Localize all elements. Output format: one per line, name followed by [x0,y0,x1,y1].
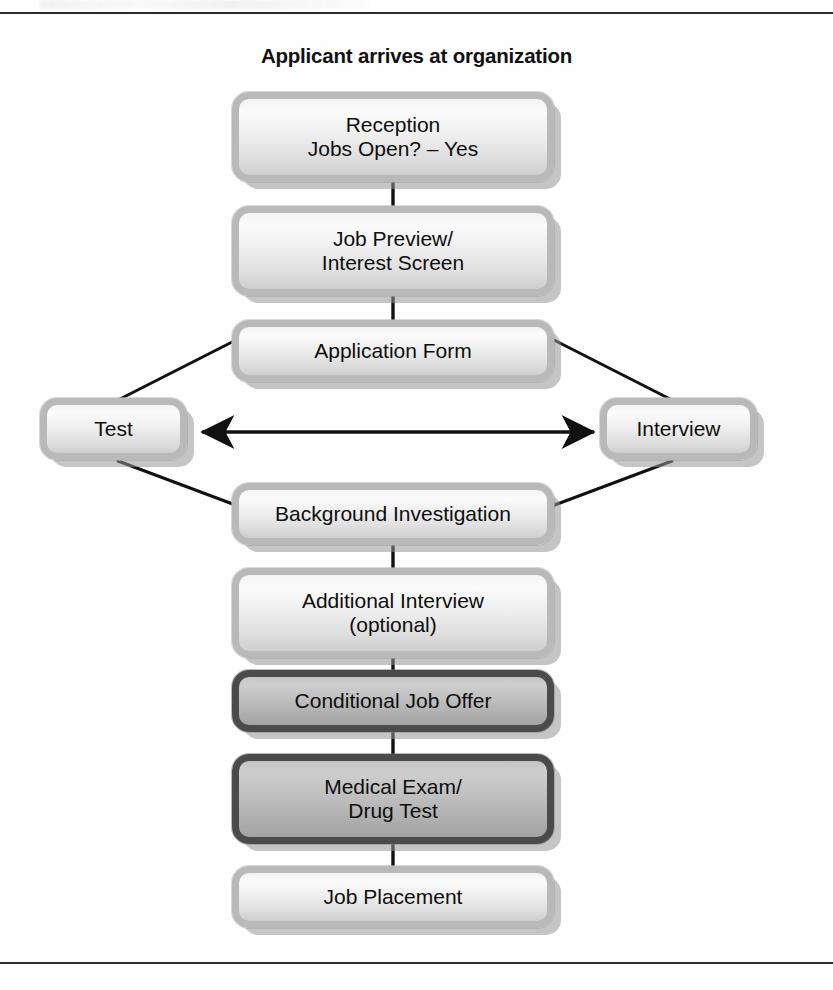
flow-node-application-form[interactable]: Application Form [232,320,554,382]
flow-node-conditional-job-offer[interactable]: Conditional Job Offer [232,670,554,732]
figure-bottom-rule [0,962,833,964]
flow-node-test[interactable]: Test [40,398,187,460]
flow-node-application-form-line-1: Application Form [314,339,472,363]
flow-node-background-investigation-line-1: Background Investigation [275,502,511,526]
flow-node-test-line-1: Test [94,417,133,441]
flow-node-medical-exam-label: Medical Exam/ Drug Test [316,775,470,824]
flow-node-job-preview-label: Job Preview/ Interest Screen [314,227,472,276]
figure-title: Applicant arrives at organization [0,44,833,68]
flow-node-reception[interactable]: Reception Jobs Open? – Yes [232,92,554,182]
flow-node-medical-exam[interactable]: Medical Exam/ Drug Test [232,754,554,844]
figure-top-rule [0,12,833,14]
flow-node-reception-line-1: Reception [308,113,478,137]
flow-node-additional-interview[interactable]: Additional Interview (optional) [232,568,554,658]
edge-application-interview [552,339,672,400]
edge-interview-background [552,461,672,506]
flow-node-medical-exam-line-2: Drug Test [324,799,462,823]
flow-node-medical-exam-line-1: Medical Exam/ [324,775,462,799]
flow-node-additional-interview-line-2: (optional) [302,613,484,637]
flow-node-job-placement-label: Job Placement [316,885,471,909]
flow-node-reception-line-2: Jobs Open? – Yes [308,137,478,161]
flow-node-reception-label: Reception Jobs Open? – Yes [300,113,486,162]
flow-node-interview-line-1: Interview [636,417,720,441]
flow-node-job-placement[interactable]: Job Placement [232,866,554,928]
flow-node-interview[interactable]: Interview [600,398,757,460]
flow-node-test-label: Test [86,417,141,441]
flow-node-conditional-job-offer-label: Conditional Job Offer [287,689,500,713]
flow-node-job-placement-line-1: Job Placement [324,885,463,909]
page-header-remnant [40,0,370,9]
flow-node-background-investigation-label: Background Investigation [267,502,519,526]
flow-node-additional-interview-line-1: Additional Interview [302,589,484,613]
figure-canvas: Applicant arrives at organization [0,0,833,990]
flow-node-conditional-job-offer-line-1: Conditional Job Offer [295,689,492,713]
edge-application-test [118,339,238,400]
flow-node-job-preview-line-1: Job Preview/ [322,227,464,251]
flow-node-job-preview[interactable]: Job Preview/ Interest Screen [232,206,554,296]
flow-node-job-preview-line-2: Interest Screen [322,251,464,275]
flow-node-additional-interview-label: Additional Interview (optional) [294,589,492,638]
flow-node-application-form-label: Application Form [306,339,480,363]
flow-node-interview-label: Interview [628,417,728,441]
edge-test-background [118,461,238,506]
flow-node-background-investigation[interactable]: Background Investigation [232,483,554,545]
